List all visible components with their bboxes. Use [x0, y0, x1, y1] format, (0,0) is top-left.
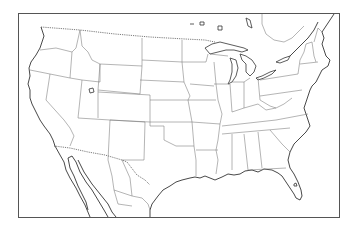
- state-borders: [30, 28, 322, 210]
- lake-superior: [205, 42, 248, 54]
- map-frame: [19, 14, 340, 218]
- west-coastline: [28, 27, 55, 146]
- mexico-border: [54, 146, 150, 185]
- great-salt-lake: [89, 88, 94, 93]
- lake-huron: [240, 54, 256, 76]
- lake-ontario: [276, 56, 290, 63]
- lake-michigan: [228, 58, 238, 84]
- atlantic-coastline: [288, 14, 334, 160]
- baja-inner-coastline: [68, 156, 108, 217]
- canada-border: [41, 27, 215, 42]
- hudson-bay-shore: [262, 14, 304, 42]
- us-outline-map: [0, 0, 354, 229]
- canada-lakes: [190, 18, 252, 30]
- lake-okeechobee: [294, 183, 297, 186]
- lake-erie: [256, 70, 276, 80]
